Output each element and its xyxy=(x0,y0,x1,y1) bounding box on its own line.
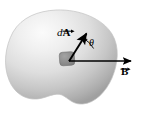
figure-canvas: dA B θ xyxy=(0,0,147,115)
area-vector-label: dA xyxy=(57,27,70,38)
field-vector-symbol: B xyxy=(121,65,128,77)
area-element-patch xyxy=(59,51,75,66)
area-vector-symbol: A xyxy=(63,26,71,38)
area-vector-symbol-wrap: A xyxy=(63,27,71,38)
diagram-svg xyxy=(0,0,147,115)
angle-label: θ xyxy=(89,38,94,48)
field-vector-label: B xyxy=(121,66,128,77)
patch-shape xyxy=(59,51,75,66)
field-vector-symbol-wrap: B xyxy=(121,66,128,77)
